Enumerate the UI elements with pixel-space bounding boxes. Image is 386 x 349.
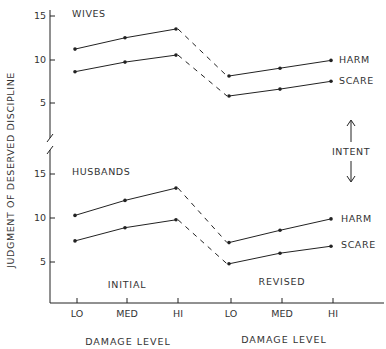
panel-title-husbands: HUSBANDS	[72, 166, 130, 177]
data-point	[123, 226, 127, 230]
data-point	[278, 66, 282, 70]
tick-label: 5	[40, 256, 46, 267]
data-point	[227, 94, 231, 98]
data-point	[227, 262, 231, 266]
series-label-scare-husbands: SCARE	[341, 239, 376, 250]
tick-label: 15	[34, 10, 46, 21]
tick-label: 5	[40, 97, 46, 108]
tick-label: LO	[225, 308, 237, 319]
series-label-scare-wives: SCARE	[339, 75, 374, 86]
tick-label: 15	[34, 168, 46, 179]
series-scare-wives	[73, 53, 333, 97]
intent-label: INTENT	[332, 146, 370, 157]
tick-label: LO	[71, 308, 83, 319]
phase-label-initial: INITIAL	[108, 279, 147, 290]
data-point	[123, 60, 127, 64]
data-point	[73, 47, 77, 51]
series-scare-husbands	[73, 218, 333, 266]
data-point	[278, 251, 282, 255]
plot-area	[73, 27, 333, 265]
tick-label: HI	[173, 308, 183, 319]
tick-label: MED	[116, 308, 138, 319]
x-axis	[50, 298, 384, 303]
tick-label: MED	[271, 308, 293, 319]
data-point	[227, 74, 231, 78]
x-tick-labels: LO MED HI LO MED HI	[71, 308, 338, 319]
series-harm-husbands	[73, 186, 333, 244]
data-point	[278, 87, 282, 91]
data-point	[329, 244, 333, 248]
y-tick-labels: 15 10 5 15 10 5	[34, 10, 46, 267]
data-point	[174, 218, 178, 222]
tick-label: 10	[34, 54, 46, 65]
tick-label: 10	[34, 212, 46, 223]
data-point	[329, 59, 333, 63]
data-point	[123, 199, 127, 203]
x-axis-label-revised: DAMAGE LEVEL	[241, 334, 327, 345]
data-point	[329, 217, 333, 221]
series-label-harm-wives: HARM	[339, 54, 370, 65]
data-point	[278, 229, 282, 233]
phase-label-revised: REVISED	[259, 276, 306, 287]
series-label-harm-husbands: HARM	[341, 213, 372, 224]
data-point	[174, 186, 178, 190]
data-point	[73, 70, 77, 74]
data-point	[174, 53, 178, 57]
data-point	[227, 241, 231, 245]
tick-label: HI	[328, 308, 338, 319]
data-point	[174, 27, 178, 31]
data-point	[73, 239, 77, 243]
data-point	[73, 214, 77, 218]
data-point	[329, 80, 333, 84]
series-harm-wives	[73, 27, 333, 78]
panel-title-wives: WIVES	[72, 8, 106, 19]
chart: JUDGMENT OF DESERVED DISCIPLINE 15 10 5 …	[0, 0, 386, 349]
x-axis-label-initial: DAMAGE LEVEL	[85, 336, 171, 347]
y-axis	[47, 10, 55, 303]
data-point	[123, 36, 127, 40]
y-axis-label: JUDGMENT OF DESERVED DISCIPLINE	[5, 72, 16, 269]
